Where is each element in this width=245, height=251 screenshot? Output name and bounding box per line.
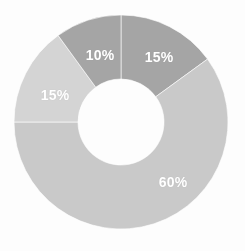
donut-chart-svg	[0, 0, 245, 251]
donut-slice-label: 15%	[145, 50, 174, 64]
donut-slice-label: 15%	[41, 88, 70, 102]
donut-slice-group	[14, 15, 228, 229]
donut-slice-label: 10%	[86, 48, 115, 62]
donut-slice-label: 60%	[159, 175, 188, 189]
donut-chart: 15%60%15%10%	[0, 0, 245, 251]
